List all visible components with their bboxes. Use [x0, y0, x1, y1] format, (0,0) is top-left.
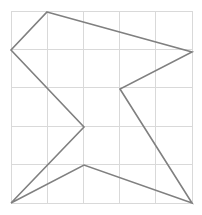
- figure-canvas: [0, 0, 202, 215]
- polygon-outline-polygon: [11, 12, 192, 203]
- polygon-chart-svg: [0, 0, 202, 215]
- shape-layer: [11, 12, 192, 203]
